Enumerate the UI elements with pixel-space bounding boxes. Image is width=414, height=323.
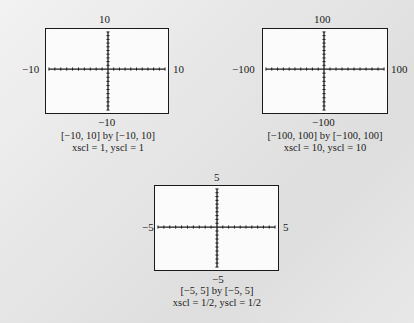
ymin-label: −10 — [98, 117, 115, 128]
xmax-label: 100 — [391, 64, 408, 75]
ymin-label: −5 — [212, 274, 224, 285]
xmax-label: 10 — [173, 64, 184, 75]
ymax-label: 5 — [214, 172, 220, 183]
graph-screen — [262, 28, 388, 114]
window-range-caption: [−10, 10] by [−10, 10] — [47, 130, 169, 142]
graph-screen — [45, 28, 169, 114]
ymin-label: −100 — [312, 117, 335, 128]
xmin-label: −5 — [142, 222, 154, 233]
scale-caption: xscl = 10, yscl = 10 — [255, 142, 395, 154]
xmin-label: −100 — [232, 64, 255, 75]
window-range-caption: [−5, 5] by [−5, 5] — [157, 285, 277, 297]
axes-icon — [155, 186, 278, 270]
axes-icon — [263, 29, 387, 113]
scale-caption: xscl = 1/2, yscl = 1/2 — [152, 297, 282, 309]
graph-screen — [154, 185, 279, 271]
xmin-label: −10 — [22, 64, 39, 75]
xmax-label: 5 — [283, 222, 289, 233]
scale-caption: xscl = 1, yscl = 1 — [47, 142, 169, 154]
ymax-label: 10 — [99, 14, 110, 25]
ymax-label: 100 — [314, 14, 331, 25]
window-range-caption: [−100, 100] by [−100, 100] — [255, 130, 395, 142]
axes-icon — [46, 29, 168, 113]
